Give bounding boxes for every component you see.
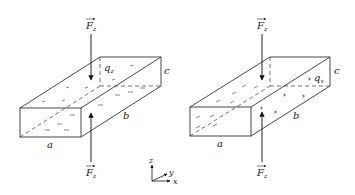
right-minus-marks [196,85,258,128]
right-box-front-face [190,107,251,136]
left-charge-marks [42,65,145,130]
right-box-hidden-edges [190,57,330,136]
right-plus-marks [260,78,311,114]
svg-text:Fz: Fz [85,167,97,179]
y-axis-label: y [168,168,174,177]
left-dim-a: a [47,139,53,150]
right-box [190,57,330,136]
left-force-top-label: Fz [85,19,97,32]
left-dim-c: c [164,65,170,76]
left-panel-longitudinal: Fz Fz qz c b a [20,19,170,179]
svg-text:Fz: Fz [85,20,97,32]
left-box [20,57,161,137]
right-force-top-label: Fz [256,19,268,32]
right-charge-label: qx [314,72,324,84]
piezoelectric-diagram: Fz Fz qz c b a z y x [0,0,355,195]
right-panel-transverse: Fz Fz qx c b a [190,19,340,179]
left-box-right-face [81,57,161,137]
y-axis [152,174,167,181]
right-dim-c: c [334,65,340,76]
coordinate-axes: z y x [148,156,178,186]
svg-text:Fz: Fz [256,167,268,179]
right-force-bottom-label: Fz [256,166,268,179]
left-dim-b: b [123,110,129,121]
left-box-top-face [20,57,161,108]
left-force-bottom-label: Fz [85,166,97,179]
left-box-hidden-edges [20,57,161,137]
right-box-right-face [251,57,330,136]
right-dim-a: a [217,138,223,149]
x-axis-label: x [173,177,178,186]
svg-text:Fz: Fz [256,20,268,32]
left-box-front-face [20,108,81,137]
right-dim-b: b [293,110,299,121]
z-axis-label: z [148,156,154,165]
left-charge-label: qz [104,62,114,74]
